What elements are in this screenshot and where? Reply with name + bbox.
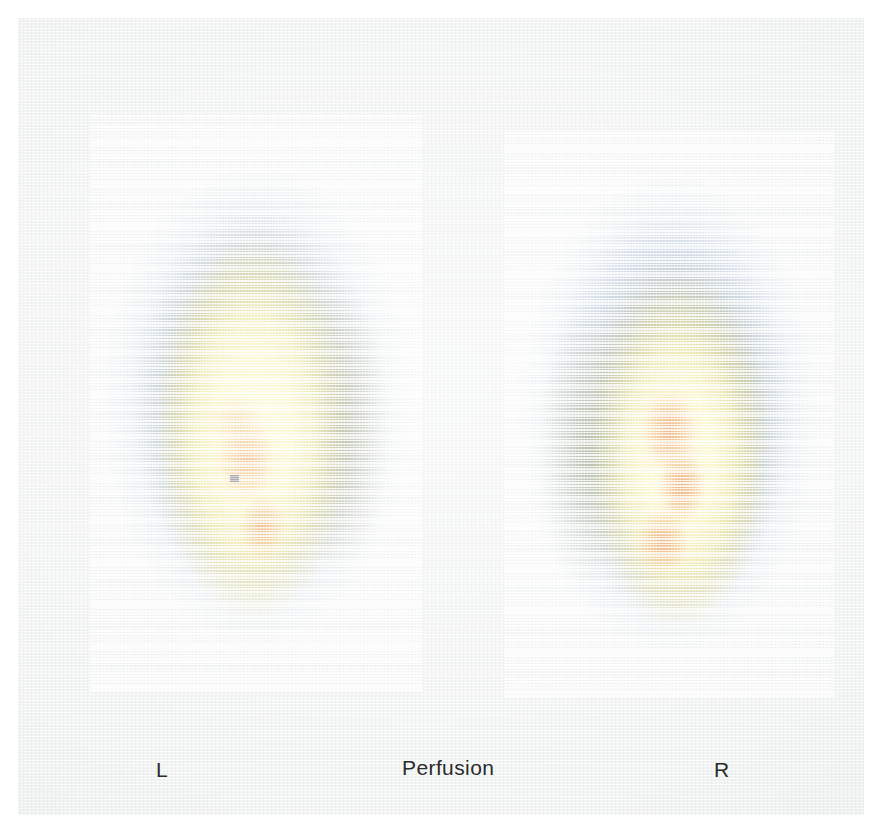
- annotation-row: L Perfusion R: [18, 740, 864, 788]
- left-side-label: L: [156, 758, 168, 782]
- study-modality-label: Perfusion: [402, 756, 494, 780]
- scan-film-area: L Perfusion R: [18, 18, 864, 815]
- right-side-label: R: [714, 758, 730, 782]
- right-lung-hot-spot-3: [510, 136, 828, 692]
- left-lung-perfusion-image: [96, 120, 416, 686]
- right-lung-perfusion-image: [510, 136, 828, 692]
- lung-perfusion-scan-page: L Perfusion R: [0, 0, 882, 830]
- left-lung-hot-spot-3: [96, 120, 416, 686]
- left-lung-registration-marker: [230, 475, 239, 482]
